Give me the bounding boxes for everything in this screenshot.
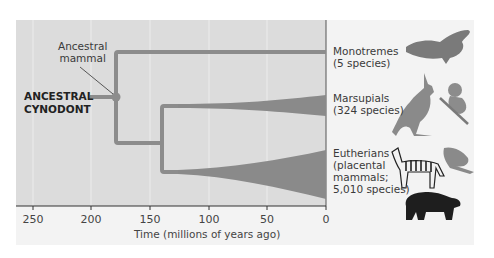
- marsupials-label: Marsupials (324 species): [333, 92, 404, 116]
- lineage-count: (5 species): [333, 57, 398, 69]
- lineage-name: Monotremes: [333, 45, 398, 57]
- x-axis-title: Time (millions of years ago): [134, 228, 280, 240]
- therian-branch: [116, 97, 162, 143]
- phylogenetic-tree: [0, 0, 494, 258]
- lineage-count: (324 species): [333, 104, 404, 116]
- marsupial-stem: [162, 106, 180, 143]
- lineage-count: 5,010 species): [333, 183, 410, 195]
- tick-0: 0: [323, 213, 330, 226]
- koala-icon: [440, 83, 468, 124]
- lineage-name: Eutherians: [333, 147, 410, 159]
- eutherians-label: Eutherians (placental mammals; 5,010 spe…: [333, 147, 410, 195]
- tick-100: 100: [199, 213, 220, 226]
- root-label-line: ANCESTRAL: [24, 90, 93, 103]
- node-label-line: Ancestral: [58, 40, 107, 52]
- marsupial-wedge: [178, 95, 326, 116]
- eutherian-wedge: [178, 150, 326, 199]
- tick-200: 200: [81, 213, 102, 226]
- mole-icon: [443, 147, 474, 174]
- eutherian-stem: [162, 143, 180, 172]
- ancestral-cynodont-label: ANCESTRAL CYNODONT: [24, 90, 93, 115]
- root-label-line: CYNODONT: [24, 103, 93, 116]
- bear-icon: [406, 192, 461, 220]
- ancestral-mammal-label: Ancestral mammal: [58, 40, 107, 64]
- monotremes-label: Monotremes (5 species): [333, 45, 398, 69]
- lineage-desc: (placental: [333, 159, 410, 171]
- tick-250: 250: [23, 213, 44, 226]
- lineage-desc: mammals;: [333, 171, 410, 183]
- monotreme-branch: [116, 52, 326, 97]
- node-label-line: mammal: [58, 52, 107, 64]
- tick-150: 150: [140, 213, 161, 226]
- tick-50: 50: [260, 213, 274, 226]
- platypus-icon: [406, 30, 470, 64]
- lineage-name: Marsupials: [333, 92, 404, 104]
- x-axis: [16, 206, 326, 210]
